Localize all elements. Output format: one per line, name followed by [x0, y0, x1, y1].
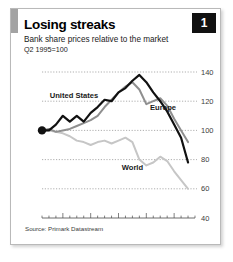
y-tick-label: 140 [201, 68, 214, 77]
base-point-marker [38, 126, 46, 134]
chart-subtitle: Bank share prices relative to the market [24, 35, 168, 44]
chart-figure: Losing streaks Bank share prices relativ… [10, 8, 221, 245]
x-axis-labels-group: 1995969798992000 [27, 222, 183, 223]
x-tick-label: 2000 [166, 222, 183, 223]
y-tick-label: 60 [201, 184, 209, 193]
series-label-united-states: United States [50, 91, 99, 100]
page-title: Losing streaks [24, 17, 115, 32]
x-tick-label: 97 [87, 222, 95, 223]
series-line-united-states [42, 75, 188, 163]
y-axis-labels-group: 406080100120140 [201, 68, 214, 223]
base-point-marker-group [38, 126, 46, 134]
x-axis-ticks-group [42, 213, 195, 218]
title-accent-bar [11, 9, 18, 33]
x-tick-label: 98 [114, 222, 122, 223]
figure-number-badge: 1 [192, 13, 216, 33]
line-chart-svg: 406080100120140 1995969798992000 United … [11, 53, 220, 223]
series-label-world: World [122, 163, 144, 172]
y-tick-label: 100 [201, 126, 214, 135]
x-tick-label: 1995 [27, 222, 44, 223]
source-note: Source: Primark Datastream [25, 225, 103, 232]
x-tick-label: 96 [59, 222, 67, 223]
x-tick-label: 99 [142, 222, 150, 223]
series-label-europe: Europe [150, 103, 176, 112]
y-tick-label: 80 [201, 155, 209, 164]
y-tick-label: 120 [201, 97, 214, 106]
y-tick-label: 40 [201, 214, 209, 223]
chart-plot-area: 406080100120140 1995969798992000 United … [11, 53, 220, 223]
